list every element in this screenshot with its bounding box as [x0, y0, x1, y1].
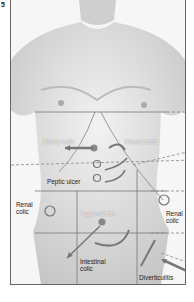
torso-illustration — [11, 0, 185, 284]
figure-number: 5 — [1, 1, 5, 8]
label-appendicitis: Appendicitis — [81, 210, 115, 217]
label-peptic-ulcer: Peptic ulcer — [47, 178, 80, 185]
anatomy-diagram: Biliary colic Pancreatitis Peptic ulcer … — [10, 0, 186, 285]
label-pancreatitis: Pancreatitis — [125, 138, 158, 145]
label-renal-colic-left: Renal colic — [16, 201, 36, 215]
label-diverticulitis: Diverticulitis — [139, 274, 173, 281]
label-biliary-colic: Biliary colic — [43, 138, 75, 145]
label-renal-colic-right: Renal colic — [166, 210, 186, 224]
label-intestinal-colic: Intestinal colic — [80, 258, 114, 272]
